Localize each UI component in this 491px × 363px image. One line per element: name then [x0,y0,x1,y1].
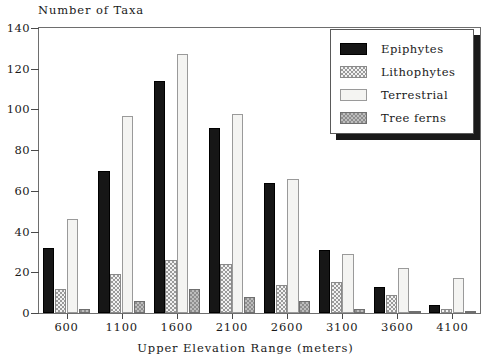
bar-epiphytes-2600 [264,183,275,313]
y-axis-tick-label: 20 [0,265,30,279]
y-axis-tick [31,150,39,151]
bar-epiphytes-3100 [319,250,330,313]
x-axis-tick-label: 2600 [271,320,303,334]
legend-item-label: Lithophytes [381,65,455,79]
bar-tree-ferns-1600 [189,289,200,313]
legend-item-label: Epiphytes [381,42,444,56]
x-axis-tick-label: 4100 [436,320,468,334]
x-axis-tick-label: 3100 [326,320,358,334]
chart-legend: EpiphytesLithophytesTerrestrialTree fern… [330,29,474,134]
bar-lithophytes-2100 [220,264,231,313]
bar-lithophytes-1600 [165,260,176,313]
x-axis-tick-label: 3600 [381,320,413,334]
bar-tree-ferns-600 [79,309,90,313]
x-axis-title: Upper Elevation Range (meters) [0,341,491,355]
bar-epiphytes-3600 [374,287,385,313]
bar-terrestrial-3100 [342,254,353,313]
legend-item-tree-ferns: Tree ferns [331,106,473,129]
y-axis-tick-label: 100 [0,102,30,116]
legend-item-epiphytes: Epiphytes [331,37,473,60]
y-axis-tick [31,28,39,29]
bar-terrestrial-1600 [177,54,188,313]
bar-tree-ferns-2100 [244,297,255,313]
bar-terrestrial-4100 [453,278,464,313]
bar-tree-ferns-1100 [134,301,145,313]
legend-item-label: Tree ferns [381,111,446,125]
bar-epiphytes-4100 [429,305,440,313]
x-axis-tick-label: 600 [54,320,78,334]
x-axis-tick [287,314,288,319]
bar-epiphytes-1600 [154,81,165,313]
solid-black-swatch [340,43,367,55]
white-swatch [340,89,367,101]
bar-chart: Number of Taxa 020406080100120140 600110… [0,0,491,363]
bar-terrestrial-2100 [232,114,243,314]
y-axis-tick-label: 0 [0,306,30,320]
x-axis-tick [397,314,398,319]
x-axis-tick [122,314,123,319]
bar-tree-ferns-3600 [409,311,420,313]
bar-lithophytes-2600 [276,285,287,314]
y-axis-tick [31,313,39,314]
x-axis-tick-label: 1100 [105,320,137,334]
bar-lithophytes-600 [55,289,66,313]
x-axis-tick [177,314,178,319]
x-axis-tick-label: 1600 [161,320,193,334]
y-axis-tick [31,109,39,110]
x-axis-tick [342,314,343,319]
y-axis-tick-label: 140 [0,21,30,35]
y-axis-tick [31,191,39,192]
bar-lithophytes-3100 [331,282,342,313]
bar-terrestrial-600 [67,219,78,313]
bar-tree-ferns-3100 [354,309,365,313]
legend-item-terrestrial: Terrestrial [331,83,473,106]
y-axis-tick-label: 40 [0,225,30,239]
x-axis-tick [452,314,453,319]
legend-item-label: Terrestrial [381,88,448,102]
bar-tree-ferns-4100 [465,311,476,313]
y-axis-tick [31,69,39,70]
light-checker-swatch [340,66,367,78]
bar-terrestrial-2600 [287,179,298,313]
bar-epiphytes-600 [43,248,54,313]
y-axis-tick-label: 80 [0,143,30,157]
y-axis-tick-label: 60 [0,184,30,198]
bar-terrestrial-1100 [122,116,133,313]
y-axis-title: Number of Taxa [38,3,144,17]
bar-tree-ferns-2600 [299,301,310,313]
x-axis-tick [67,314,68,319]
bar-lithophytes-4100 [441,309,452,313]
y-axis-tick [31,232,39,233]
y-axis-tick-label: 120 [0,62,30,76]
bar-epiphytes-2100 [209,128,220,313]
bar-lithophytes-3600 [386,295,397,313]
x-axis-tick-label: 2100 [216,320,248,334]
bar-epiphytes-1100 [98,171,109,314]
x-axis-tick [232,314,233,319]
bar-lithophytes-1100 [110,274,121,313]
bar-terrestrial-3600 [398,268,409,313]
y-axis-tick [31,272,39,273]
gray-checker-swatch [340,112,367,124]
legend-item-lithophytes: Lithophytes [331,60,473,83]
